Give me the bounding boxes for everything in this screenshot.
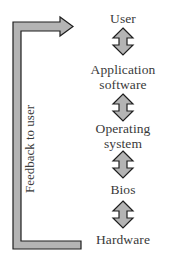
node-operating-system-line2: system — [84, 136, 162, 151]
feedback-label: Feedback to user — [22, 94, 38, 204]
node-bios: Bios — [84, 182, 162, 197]
node-user: User — [84, 11, 162, 26]
double-arrow-icon-os-bios — [113, 151, 133, 178]
double-arrow-icon-app-os — [113, 94, 133, 121]
node-operating-system-line1: Operating — [84, 121, 162, 136]
node-application-line2: software — [84, 77, 162, 92]
double-arrow-icon-bios-hardware — [113, 201, 133, 228]
layer-diagram: Feedback to user User Application softwa… — [0, 0, 172, 261]
node-application-line1: Application — [84, 62, 162, 77]
double-arrow-icon-user-app — [113, 28, 133, 55]
node-hardware: Hardware — [84, 232, 162, 247]
